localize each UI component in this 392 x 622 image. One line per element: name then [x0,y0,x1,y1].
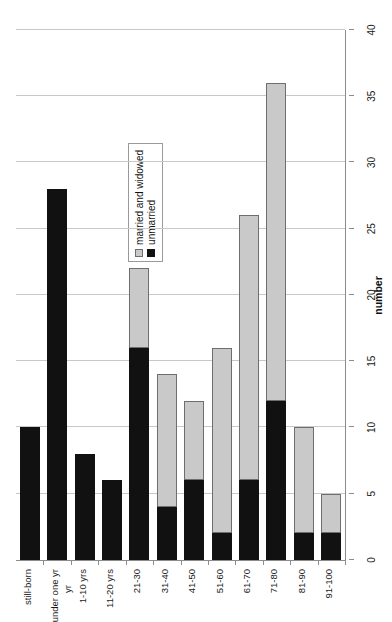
category-axis-title: yr [62,585,73,593]
value-axis-tick [349,95,354,96]
category-axis-tick [235,560,236,565]
plot-area: married and widowedunmarried 05101520253… [16,30,346,561]
bar-segment-unmarried[interactable] [102,481,122,561]
gridline [16,29,345,30]
category-axis-tick [263,560,264,565]
bar-segment-unmarried[interactable] [20,428,40,561]
legend-label: unmarried [146,200,157,245]
value-axis-tick [349,162,354,163]
bar-segment-unmarried[interactable] [47,189,67,560]
legend-swatch-icon [135,249,143,257]
category-axis-tick [98,560,99,565]
bar-segment-married-and-widowed[interactable] [129,269,149,349]
bar-segment-married-and-widowed[interactable] [294,428,314,534]
legend-label: married and widowed [134,150,145,245]
bar-segment-married-and-widowed[interactable] [184,401,204,481]
category-label: 41-50 [187,569,197,593]
bar-segment-married-and-widowed[interactable] [157,375,177,508]
bar-segment-married-and-widowed[interactable] [266,83,286,401]
value-axis-tick [349,29,354,30]
bar-row[interactable] [239,216,259,561]
bar-row[interactable] [294,428,314,561]
bar-segment-unmarried[interactable] [321,534,341,561]
category-label: 81-90 [297,569,307,593]
category-axis-tick [345,560,346,565]
category-label: 91-100 [324,569,334,599]
category-axis-tick [208,560,209,565]
category-label: 71-80 [269,569,279,593]
value-axis-tick [349,427,354,428]
bar-segment-unmarried[interactable] [266,401,286,560]
gridline [16,162,345,163]
bar-row[interactable] [102,481,122,561]
category-axis-tick [290,560,291,565]
gridline [16,95,345,96]
value-axis-title: number [372,30,384,561]
value-axis-tick [349,294,354,295]
legend-item[interactable]: married and widowed [134,150,145,257]
category-axis-tick [71,560,72,565]
bar-row[interactable] [321,494,341,560]
legend-item[interactable]: unmarried [146,150,157,257]
value-axis-tick [349,228,354,229]
category-label: 51-60 [215,569,225,593]
bar-row[interactable] [157,375,177,561]
bar-row[interactable] [75,454,95,560]
bar-segment-unmarried[interactable] [212,534,232,561]
bar-segment-unmarried[interactable] [157,507,177,560]
bar-row[interactable] [212,348,232,560]
category-axis-tick [153,560,154,565]
bar-segment-unmarried[interactable] [75,454,95,560]
bar-segment-unmarried[interactable] [239,481,259,561]
bar-segment-unmarried[interactable] [294,534,314,561]
category-axis-tick [126,560,127,565]
bar-row[interactable] [47,189,67,560]
category-label: 21-30 [132,569,142,593]
category-label: still-born [23,569,33,605]
bar-row[interactable] [129,269,149,561]
category-axis-tick [181,560,182,565]
category-label: 11-20 yrs [105,569,115,608]
bar-row[interactable] [20,428,40,561]
category-label: 1-10 yrs [78,569,88,603]
bar-segment-married-and-widowed[interactable] [212,348,232,534]
category-label: under one yr [50,569,60,622]
category-label: 61-70 [242,569,252,593]
legend-swatch-icon [147,249,155,257]
bar-row[interactable] [266,83,286,560]
value-axis-tick [349,360,354,361]
bar-segment-unmarried[interactable] [184,481,204,561]
bar-segment-married-and-widowed[interactable] [239,216,259,481]
value-axis-tick [349,559,354,560]
bar-segment-married-and-widowed[interactable] [321,494,341,534]
bar-segment-unmarried[interactable] [129,348,149,560]
bar-row[interactable] [184,401,204,560]
category-axis-tick [318,560,319,565]
category-axis-tick [43,560,44,565]
category-label: 31-40 [160,569,170,593]
value-axis-tick [349,493,354,494]
